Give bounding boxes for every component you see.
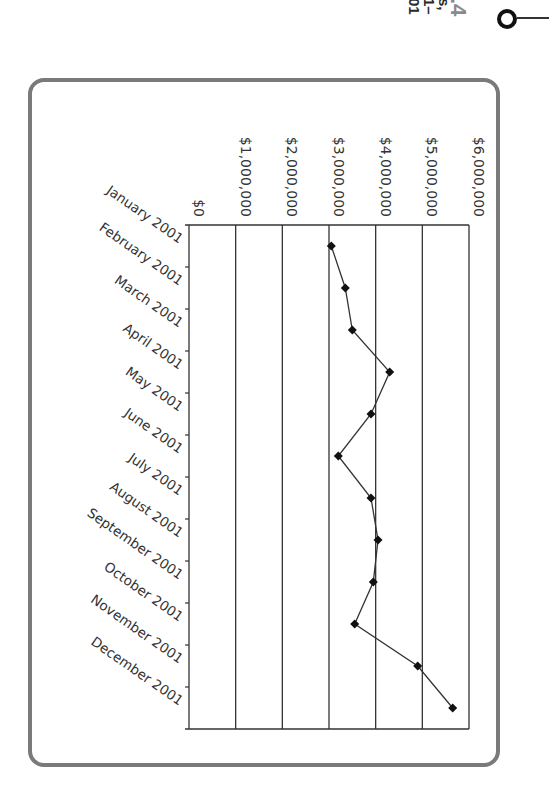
value-axis-label: $1,000,000 — [238, 137, 254, 217]
value-axis-label: $0 — [191, 199, 207, 217]
series-line — [331, 246, 452, 708]
value-axis-label: $3,000,000 — [331, 137, 347, 217]
value-axis-label: $4,000,000 — [378, 137, 394, 217]
value-axis-label: $2,000,000 — [284, 137, 300, 217]
data-point-diamond-icon — [341, 284, 350, 293]
data-point-diamond-icon — [374, 536, 383, 545]
data-point-diamond-icon — [350, 620, 359, 629]
line-chart: $0$1,000,000$2,000,000$3,000,000$4,000,0… — [0, 0, 549, 811]
data-point-diamond-icon — [327, 242, 336, 251]
data-point-diamond-icon — [369, 578, 378, 587]
value-axis-label: $6,000,000 — [471, 137, 487, 217]
value-axis-label: $5,000,000 — [424, 137, 440, 217]
